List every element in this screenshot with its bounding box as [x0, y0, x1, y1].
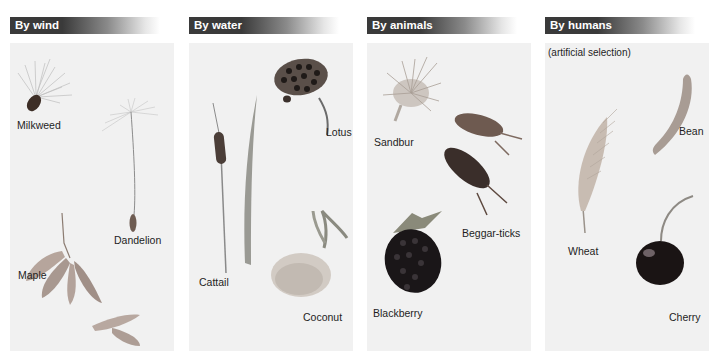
coconut-icon — [271, 211, 347, 297]
milkweed-seed-icon — [18, 59, 72, 114]
cherry-icon — [636, 196, 693, 285]
wheat-ear-icon — [578, 109, 617, 233]
label-bean: Bean — [679, 125, 704, 137]
dandelion-seed-icon — [102, 98, 158, 232]
panel-by-animals: By animals — [367, 17, 531, 353]
label-cattail: Cattail — [199, 276, 229, 288]
panel-body: Sandbur Beggar-ticks Blackberry — [367, 43, 531, 351]
panel-body: Lotus Cattail Coconut — [189, 43, 353, 351]
cattail-icon — [213, 95, 257, 273]
panel-title: By humans — [545, 17, 695, 34]
panel-title: By wind — [10, 17, 160, 34]
label-dandelion: Dandelion — [114, 234, 161, 246]
panel-by-wind: By wind — [10, 17, 174, 353]
bean-pod-icon — [653, 75, 692, 156]
panel-title: By animals — [367, 17, 517, 34]
sandbur-icon — [383, 57, 441, 121]
label-sandbur: Sandbur — [374, 136, 414, 148]
label-blackberry: Blackberry — [373, 307, 423, 319]
label-wheat: Wheat — [568, 245, 598, 257]
panel-body: Milkweed Dandelion Maple — [10, 43, 174, 351]
panel-by-humans: By humans (artificial selection) — [545, 17, 709, 353]
label-maple: Maple — [18, 269, 47, 281]
beggar-ticks-icon — [438, 109, 522, 215]
panel-title: By water — [189, 17, 339, 34]
panel-body: (artificial selection) Bean — [545, 43, 709, 351]
lotus-pod-icon — [271, 55, 330, 135]
label-coconut: Coconut — [303, 311, 342, 323]
label-beggar-ticks: Beggar-ticks — [462, 227, 520, 239]
blackberry-icon — [378, 211, 449, 299]
panel-by-water: By water — [189, 17, 353, 353]
label-milkweed: Milkweed — [17, 119, 61, 131]
label-cherry: Cherry — [669, 311, 701, 323]
label-lotus: Lotus — [326, 126, 352, 138]
